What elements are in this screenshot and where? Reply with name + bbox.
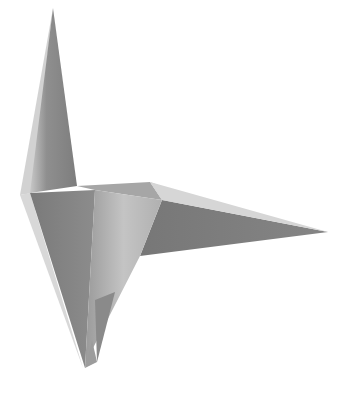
body [20, 190, 162, 368]
origami-crane-photo [0, 0, 343, 398]
origami-crane-illustration [0, 0, 343, 398]
tail [140, 182, 328, 256]
neck [20, 8, 77, 195]
